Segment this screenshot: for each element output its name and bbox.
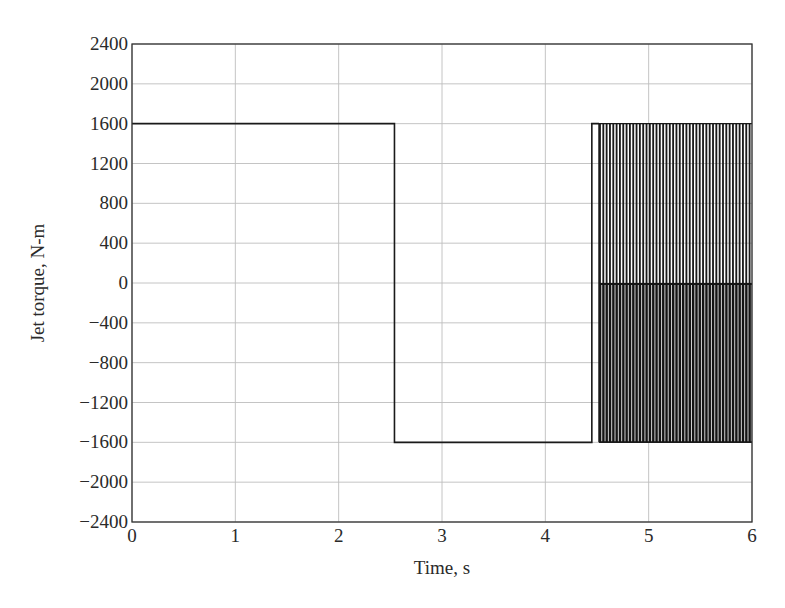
chatter-upper-bar <box>735 124 737 283</box>
x-tick-label: 2 <box>334 525 344 546</box>
chatter-upper-bar <box>749 124 751 283</box>
y-tick-label: 2400 <box>90 33 128 54</box>
chatter-upper-bar <box>646 124 648 283</box>
chatter-upper-bar <box>656 124 658 283</box>
chatter-upper-bar <box>659 124 661 283</box>
chatter-upper-bar <box>702 124 704 283</box>
chatter-upper-bar <box>669 124 671 283</box>
chatter-upper-bar <box>745 124 747 283</box>
chatter-upper-bar <box>682 124 684 283</box>
chatter-upper-bar <box>636 124 638 283</box>
chatter-upper-bar <box>692 124 694 283</box>
chatter-upper-bar <box>609 124 611 283</box>
chatter-upper-bar <box>619 124 621 283</box>
x-axis-label: Time, s <box>414 557 470 578</box>
chatter-upper-bar <box>715 124 717 283</box>
chatter-upper-bar <box>632 124 634 283</box>
y-tick-label: 0 <box>119 272 129 293</box>
chatter-upper-bar <box>672 124 674 283</box>
chatter-upper-bar <box>729 124 731 283</box>
x-tick-label: 4 <box>541 525 551 546</box>
chatter-upper-bar <box>606 124 608 283</box>
y-tick-label: −2000 <box>79 471 128 492</box>
chatter-upper-bar <box>725 124 727 283</box>
chatter-upper-bar <box>742 124 744 283</box>
chatter-upper-bar <box>639 124 641 283</box>
x-tick-label: 3 <box>437 525 447 546</box>
y-tick-label: 1200 <box>90 153 128 174</box>
chatter-upper-bar <box>629 124 631 283</box>
chatter-upper-bar <box>732 124 734 283</box>
chatter-upper-bar <box>649 124 651 283</box>
chatter-upper-bar <box>686 124 688 283</box>
chatter-upper-bar <box>622 124 624 283</box>
chatter-upper-bar <box>709 124 711 283</box>
chatter-upper-bar <box>652 124 654 283</box>
chatter-upper-bar <box>695 124 697 283</box>
chatter-upper-bar <box>712 124 714 283</box>
x-axis-ticks: 0123456 <box>127 525 757 546</box>
y-tick-label: 800 <box>100 192 129 213</box>
y-axis-ticks: 24002000160012008004000−400−800−1200−160… <box>79 33 128 532</box>
chatter-upper-bar <box>662 124 664 283</box>
y-tick-label: 2000 <box>90 73 128 94</box>
chatter-upper-bar <box>626 124 628 283</box>
chatter-upper-bar <box>739 124 741 283</box>
chatter-upper-bar <box>666 124 668 283</box>
chatter-upper-bar <box>722 124 724 283</box>
y-axis-label: Jet torque, N-m <box>27 223 48 342</box>
chatter-upper-bar <box>676 124 678 283</box>
chatter-upper-bar <box>642 124 644 283</box>
y-tick-label: −2400 <box>79 511 128 532</box>
x-tick-label: 1 <box>231 525 241 546</box>
y-tick-label: −1600 <box>79 431 128 452</box>
chatter-upper-bar <box>705 124 707 283</box>
chatter-upper-bar <box>616 124 618 283</box>
chatter-upper-bar <box>602 124 604 283</box>
x-tick-label: 5 <box>644 525 654 546</box>
y-tick-label: −1200 <box>79 392 128 413</box>
chatter-upper-bar <box>719 124 721 283</box>
chatter-upper-bar <box>689 124 691 283</box>
chatter-upper-bar <box>679 124 681 283</box>
chatter-upper-bar <box>699 124 701 283</box>
y-tick-label: 1600 <box>90 113 128 134</box>
jet-torque-chart: 24002000160012008004000−400−800−1200−160… <box>0 0 785 608</box>
chatter-upper-bar <box>612 124 614 283</box>
y-tick-label: −400 <box>89 312 128 333</box>
x-tick-label: 0 <box>127 525 137 546</box>
y-tick-label: 400 <box>100 232 129 253</box>
x-tick-label: 6 <box>747 525 757 546</box>
y-tick-label: −800 <box>89 352 128 373</box>
